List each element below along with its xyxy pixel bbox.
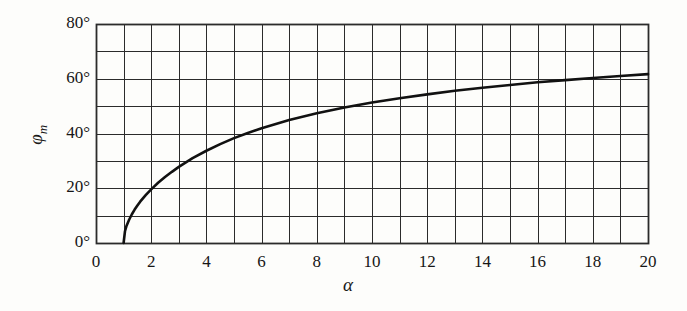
y-axis-title: φm <box>25 115 51 155</box>
y-axis-tick-label: 80° <box>2 13 90 33</box>
x-axis-tick-label: 16 <box>529 252 546 272</box>
x-axis-tick-label: 10 <box>364 252 381 272</box>
data-series-curve <box>124 74 648 243</box>
x-axis-tick-label: 18 <box>584 252 601 272</box>
x-axis-tick-label: 0 <box>92 252 101 272</box>
x-axis-tick-label: 2 <box>147 252 156 272</box>
x-axis-tick-label: 4 <box>202 252 211 272</box>
y-axis-tick-label: 60° <box>2 68 90 88</box>
x-axis-title: α <box>343 274 353 296</box>
y-axis-title-subscript: m <box>35 125 50 134</box>
y-axis-tick-label: 0° <box>2 232 90 252</box>
x-axis-tick-label: 12 <box>419 252 436 272</box>
y-axis-title-symbol: φ <box>25 134 46 145</box>
x-axis-tick-label: 20 <box>640 252 657 272</box>
x-axis-tick-label: 14 <box>474 252 491 272</box>
x-axis-tick-label: 6 <box>257 252 266 272</box>
y-axis-tick-label: 20° <box>2 177 90 197</box>
figure-container: 80°60°40°20°0° 02468101214161820 φm α <box>0 0 687 311</box>
x-axis-tick-label: 8 <box>313 252 322 272</box>
